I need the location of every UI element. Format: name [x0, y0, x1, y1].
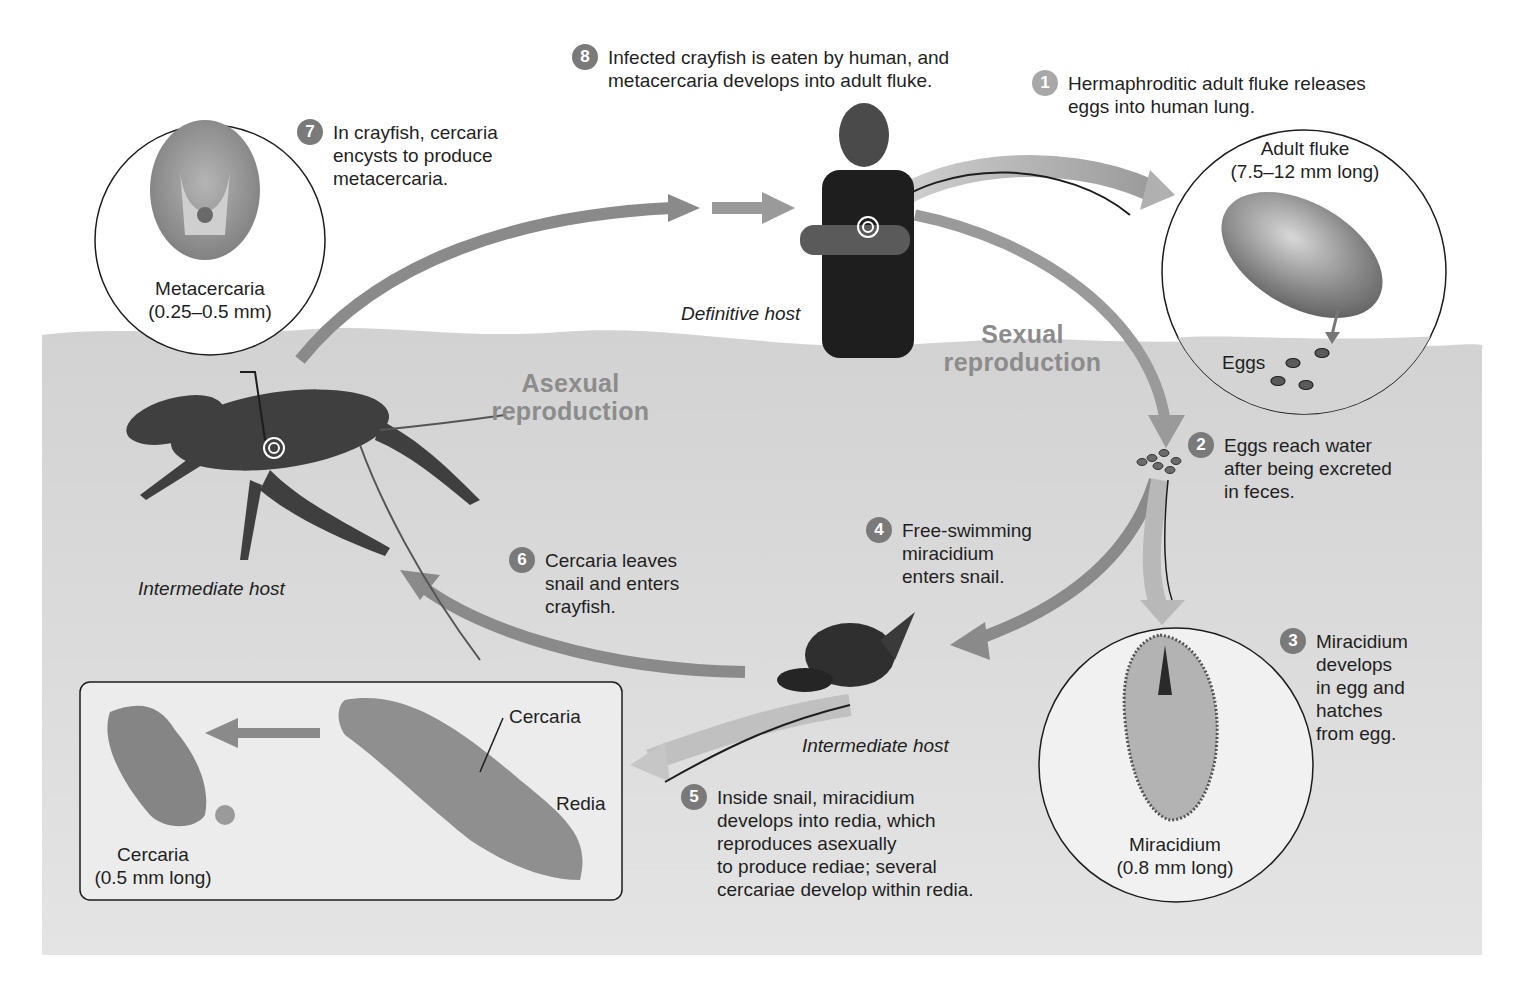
- redia-label: Redia: [556, 792, 606, 815]
- step-2: 2 Eggs reach water after being excreted …: [1188, 434, 1392, 503]
- step-1-text: Hermaphroditic adult fluke releases eggs…: [1068, 72, 1366, 118]
- step-badge-3: 3: [1280, 628, 1306, 654]
- step-3: 3 Miracidium develops in egg and hatches…: [1280, 630, 1408, 745]
- step-4: 4 Free-swimming miracidium enters snail.: [866, 519, 1032, 588]
- step-4-text: Free-swimming miracidium enters snail.: [902, 519, 1032, 588]
- metacercaria-size: (0.25–0.5 mm): [135, 300, 285, 323]
- step-1: 1 Hermaphroditic adult fluke releases eg…: [1032, 72, 1366, 118]
- step-8: 8 Infected crayfish is eaten by human, a…: [572, 46, 949, 92]
- eggs-label: Eggs: [1222, 351, 1265, 374]
- step-7: 7 In crayfish, cercaria encysts to produ…: [297, 121, 498, 190]
- step-badge-7: 7: [297, 119, 323, 145]
- step-badge-4: 4: [866, 517, 892, 543]
- step-2-text: Eggs reach water after being excreted in…: [1224, 434, 1392, 503]
- step-6-text: Cercaria leaves snail and enters crayfis…: [545, 549, 679, 618]
- snail-intermediate-host-label: Intermediate host: [802, 734, 949, 757]
- cercaria-within-redia-label: Cercaria: [509, 705, 581, 728]
- crayfish-intermediate-host-label: Intermediate host: [138, 577, 285, 600]
- step-badge-8: 8: [572, 44, 598, 70]
- lung-fluke-life-cycle-diagram: Sexual reproduction Asexual reproduction…: [0, 0, 1518, 988]
- asexual-reproduction-label: Asexual reproduction: [478, 369, 663, 425]
- adult-fluke-label: Adult fluke: [1220, 137, 1390, 160]
- sexual-reproduction-label: Sexual reproduction: [930, 320, 1115, 376]
- step-badge-2: 2: [1188, 432, 1214, 458]
- miracidium-size: (0.8 mm long): [1100, 856, 1250, 879]
- step-7-text: In crayfish, cercaria encysts to produce…: [333, 121, 498, 190]
- cercaria-label: Cercaria: [88, 843, 218, 866]
- adult-fluke-size: (7.5–12 mm long): [1220, 160, 1390, 183]
- step-badge-1: 1: [1032, 70, 1058, 96]
- step-badge-5: 5: [681, 784, 707, 810]
- step-3-text: Miracidium develops in egg and hatches f…: [1316, 630, 1408, 745]
- cercaria-size: (0.5 mm long): [78, 866, 228, 889]
- step-8-text: Infected crayfish is eaten by human, and…: [608, 46, 949, 92]
- step-5: 5 Inside snail, miracidium develops into…: [681, 786, 974, 901]
- step-5-text: Inside snail, miracidium develops into r…: [717, 786, 974, 901]
- miracidium-label: Miracidium: [1100, 833, 1250, 856]
- metacercaria-label: Metacercaria: [135, 277, 285, 300]
- step-6: 6 Cercaria leaves snail and enters crayf…: [509, 549, 679, 618]
- human-illustration: [800, 103, 914, 358]
- definitive-host-label: Definitive host: [681, 302, 800, 325]
- step-badge-6: 6: [509, 547, 535, 573]
